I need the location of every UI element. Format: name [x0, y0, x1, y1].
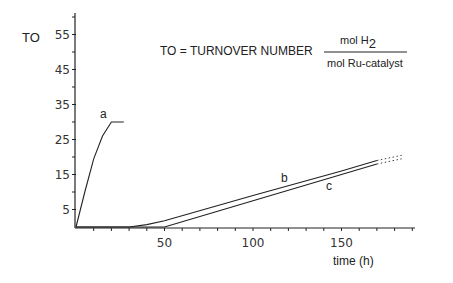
- x-tick-label: 150: [330, 236, 353, 250]
- fraction-numerator: mol H2: [340, 34, 376, 51]
- y-tick-label: 15: [55, 168, 70, 182]
- series-label-c: c: [326, 179, 332, 193]
- turnover-chart: 51525354555 50100150 TO time (h) TO = TU…: [0, 0, 453, 283]
- y-tick-label: 5: [62, 203, 70, 217]
- definition-text: TO = TURNOVER NUMBER: [160, 44, 313, 58]
- x-ticks: 50100150: [94, 228, 413, 250]
- curve-b: [76, 161, 377, 228]
- y-tick-label: 55: [55, 28, 70, 42]
- numerator-text: mol H: [340, 34, 369, 46]
- x-tick-label: 50: [157, 236, 172, 250]
- fraction-denominator: mol Ru-catalyst: [327, 57, 403, 69]
- x-tick-label: 100: [242, 236, 265, 250]
- y-axis-label: TO: [22, 30, 40, 45]
- numerator-subscript: 2: [369, 36, 376, 51]
- series-label-b: b: [281, 171, 288, 185]
- series-label-a: a: [100, 107, 107, 121]
- x-axis-label: time (h): [333, 254, 374, 268]
- curve-b-extrapolated: [377, 155, 402, 160]
- y-ticks: 51525354555: [55, 17, 76, 217]
- curve-c-extrapolated: [377, 159, 402, 164]
- curve-a: [76, 122, 124, 227]
- y-tick-label: 25: [55, 133, 70, 147]
- curves: [76, 122, 402, 227]
- y-tick-label: 35: [55, 98, 70, 112]
- y-tick-label: 45: [55, 63, 70, 77]
